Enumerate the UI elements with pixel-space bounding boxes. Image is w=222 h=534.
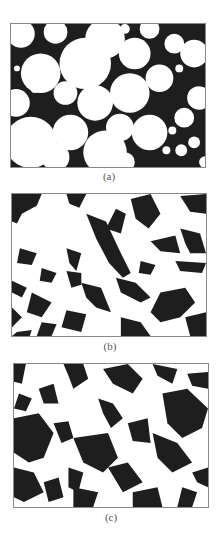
angular-fine-microstructure: [12, 194, 206, 336]
caption-b: (b): [80, 340, 140, 352]
panel-a-image: [10, 23, 206, 168]
panel-c-image: [13, 363, 209, 508]
caption-c: (c): [81, 511, 141, 523]
rounded-grain-microstructure: [11, 24, 205, 167]
caption-a: (a): [79, 170, 139, 182]
panel-b-image: [11, 193, 207, 337]
shard-microstructure: [14, 364, 208, 507]
